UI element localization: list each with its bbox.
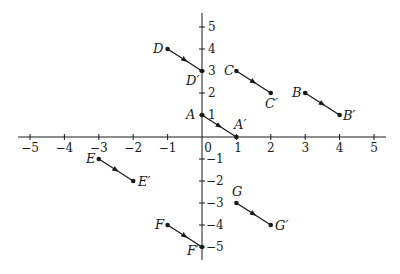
label-d-prime: D′ [185, 73, 199, 88]
segment-g: G G′ [232, 184, 288, 233]
point-b-prime [337, 113, 342, 118]
label-e-prime: E′ [137, 174, 150, 189]
coordinate-plane: −5 −4 −3 −2 −1 1 2 3 4 5 0 5 4 3 2 1 −1 … [0, 0, 400, 274]
label-d: D [152, 41, 164, 56]
point-c [234, 69, 239, 74]
point-f [165, 223, 170, 228]
label-c: C [224, 63, 234, 78]
label-f-prime: F′ [186, 243, 199, 258]
label-c-prime: C′ [265, 96, 278, 111]
point-b [303, 91, 308, 96]
x-tick-label: −5 [21, 141, 39, 155]
point-e-prime [131, 179, 136, 184]
x-tick-label: −1 [159, 141, 177, 155]
point-c-prime [269, 91, 274, 96]
x-tick-label: −2 [124, 141, 142, 155]
y-tick-label: 3 [208, 64, 216, 78]
x-tick-label: 3 [301, 141, 309, 155]
label-a: A [185, 107, 195, 122]
label-b: B [291, 85, 302, 100]
y-tick-label: 2 [208, 86, 216, 100]
segment-e: E E′ [85, 151, 150, 189]
label-f: F [154, 217, 165, 232]
x-tick-label: 4 [336, 141, 344, 155]
x-tick-label: 1 [234, 141, 242, 155]
segment-d: D D′ [152, 41, 204, 88]
segment-b: B B′ [291, 85, 356, 123]
y-tick-label: 4 [208, 42, 216, 56]
label-a-prime: A′ [233, 117, 246, 132]
x-axis-tick-labels: −5 −4 −3 −2 −1 1 2 3 4 5 0 [21, 141, 378, 155]
point-e [97, 157, 102, 162]
label-e: E [85, 151, 96, 166]
segment-f: F F′ [154, 217, 204, 258]
point-a [200, 113, 205, 118]
point-f-prime [200, 245, 205, 250]
point-g-prime [269, 223, 274, 228]
segment-a: A A′ [185, 107, 246, 139]
y-tick-label: −2 [206, 174, 224, 188]
y-tick-label: −3 [206, 196, 224, 210]
point-d [165, 47, 170, 52]
label-g-prime: G′ [275, 218, 288, 233]
x-tick-label: 2 [267, 141, 275, 155]
x-tick-label: 5 [370, 141, 378, 155]
point-d-prime [200, 69, 205, 74]
x-tick-label: −4 [56, 141, 74, 155]
point-g [234, 201, 239, 206]
point-a-prime [234, 135, 239, 140]
segment-c: C C′ [224, 63, 278, 111]
y-tick-label: 5 [208, 20, 216, 34]
label-g: G [232, 184, 242, 199]
y-tick-label: −1 [206, 152, 224, 166]
label-b-prime: B′ [342, 108, 356, 123]
y-tick-label: −4 [206, 218, 224, 232]
y-tick-label: −5 [206, 240, 224, 254]
